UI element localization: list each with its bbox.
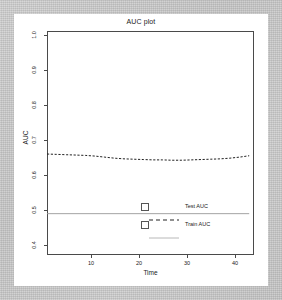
y-tick-mark [44, 35, 47, 36]
legend-label-test-auc: Test AUC [185, 203, 208, 209]
legend-swatch-box-icon [141, 221, 149, 229]
y-tick-mark [44, 245, 47, 246]
legend-swatch-box-icon [141, 203, 149, 211]
y-tick-label: 0.8 [31, 97, 37, 113]
chart-legend: Test AUC Train AUC [140, 200, 244, 234]
x-axis-label: Time [47, 269, 254, 276]
legend-entry-test-auc: Test AUC [140, 200, 244, 214]
x-tick-label: 10 [81, 260, 101, 266]
x-tick-mark [139, 255, 140, 258]
y-tick-label: 1.0 [31, 27, 37, 43]
x-tick-mark [235, 255, 236, 258]
plot-card: AUC plot AUC Time 1.0 0.9 0.8 0.7 0.6 0.… [14, 14, 268, 286]
y-tick-label: 0.6 [31, 167, 37, 183]
legend-line-dashed-icon [149, 207, 179, 208]
y-tick-label: 0.9 [31, 62, 37, 78]
legend-label-train-auc: Train AUC [185, 221, 210, 227]
legend-entry-train-auc: Train AUC [140, 218, 244, 232]
y-tick-mark [44, 70, 47, 71]
x-tick-label: 40 [225, 260, 245, 266]
legend-line-solid-icon [149, 225, 179, 226]
y-tick-mark [44, 210, 47, 211]
y-tick-label: 0.4 [31, 237, 37, 253]
x-tick-label: 20 [129, 260, 149, 266]
chart-title: AUC plot [14, 18, 268, 25]
y-tick-label: 0.7 [31, 132, 37, 148]
x-tick-label: 30 [177, 260, 197, 266]
y-tick-mark [44, 175, 47, 176]
x-tick-mark [187, 255, 188, 258]
y-axis-label: AUC [22, 124, 29, 152]
y-tick-mark [44, 140, 47, 141]
x-tick-mark [91, 255, 92, 258]
y-tick-mark [44, 105, 47, 106]
y-tick-label: 0.5 [31, 202, 37, 218]
